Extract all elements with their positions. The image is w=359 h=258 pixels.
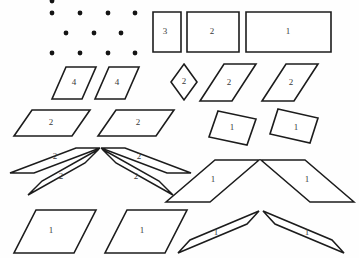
- label-para-2-wide-right: 2: [136, 117, 141, 127]
- grid-dot: [64, 31, 69, 36]
- label-para-1-big-left: 1: [49, 225, 54, 235]
- grid-dot: [78, 11, 83, 16]
- label-sliver-1-mid-right: 1: [305, 174, 310, 184]
- grid-dot: [50, 11, 55, 16]
- grid-dot: [92, 31, 97, 36]
- label-quad-1-tilt-left: 1: [230, 122, 235, 132]
- grid-dot: [133, 11, 138, 16]
- grid-dot: [50, 0, 55, 3]
- label-para-2-steep-left: 2: [227, 77, 232, 87]
- grid-dot: [119, 31, 124, 36]
- label-para-2-steep-right: 2: [289, 77, 294, 87]
- shape-sliver-1-bottom-right: [263, 211, 344, 253]
- label-rhombus-2: 2: [182, 76, 187, 86]
- grid-dot: [133, 51, 138, 56]
- label-sliver-1-bottom-right: 1: [305, 227, 310, 237]
- figure-canvas: 3214422222112222111111: [0, 0, 359, 258]
- grid-dot: [78, 51, 83, 56]
- shape-para-1-big-left: [14, 210, 96, 253]
- label-sliver-1-mid-left: 1: [211, 174, 216, 184]
- label-sliver-2-upper-right: 2: [137, 151, 142, 161]
- geometry-figure: 3214422222112222111111: [0, 0, 359, 258]
- label-sliver-2-lower-right: 2: [134, 171, 139, 181]
- label-para-4-left: 4: [72, 77, 77, 87]
- label-sliver-1-bottom-left: 1: [214, 227, 219, 237]
- label-quad-1-tilt-right: 1: [294, 122, 299, 132]
- label-sliver-2-lower-left: 2: [59, 171, 64, 181]
- label-rect-1: 1: [286, 26, 291, 36]
- grid-dot: [50, 51, 55, 56]
- label-rect-3: 3: [163, 26, 168, 36]
- grid-dot: [106, 11, 111, 16]
- label-rect-2: 2: [210, 26, 215, 36]
- dot-grid-layer: [50, 0, 138, 55]
- shape-para-1-big-right: [105, 210, 187, 253]
- shape-sliver-1-bottom-left: [178, 211, 259, 253]
- label-sliver-2-upper-left: 2: [53, 151, 58, 161]
- label-para-4-right: 4: [115, 77, 120, 87]
- shape-layer: [10, 12, 354, 253]
- grid-dot: [106, 51, 111, 56]
- label-para-1-big-right: 1: [140, 225, 145, 235]
- label-para-2-wide-left: 2: [49, 117, 54, 127]
